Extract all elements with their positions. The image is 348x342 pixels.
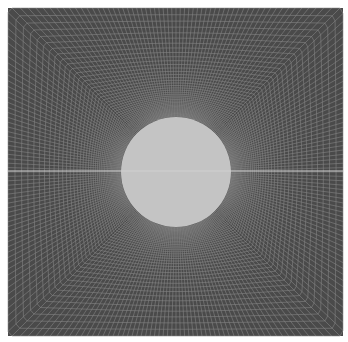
cylinder-circle xyxy=(121,117,231,227)
mesh-diagram xyxy=(0,0,348,342)
